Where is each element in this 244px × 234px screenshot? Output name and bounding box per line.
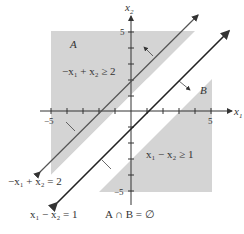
tick-label-x-neg5: −5 — [44, 116, 54, 126]
caption: A ∩ B = ∅ — [105, 208, 155, 220]
region-a-label: A — [69, 38, 77, 50]
line1-label: −x₁ + x₂ = 2 — [8, 175, 62, 187]
tick-label-y-5: 5 — [120, 27, 125, 37]
feasible-region-diagram: x2 x1 5 −5 −5 5 A −x₁ + x₂ ≥ 2 B x₁ − x₂… — [0, 0, 244, 234]
tick-label-x-5: 5 — [208, 116, 213, 126]
line2-label: x₁ − x₂ = 1 — [30, 208, 78, 220]
tick-label-y-neg5: −5 — [114, 187, 124, 197]
y-axis-label: x2 — [124, 1, 134, 16]
region-b-label: B — [200, 84, 207, 96]
region-b-inequality: x₁ − x₂ ≥ 1 — [146, 148, 193, 160]
x-axis-label: x1 — [233, 105, 242, 120]
region-a-inequality: −x₁ + x₂ ≥ 2 — [62, 65, 116, 77]
